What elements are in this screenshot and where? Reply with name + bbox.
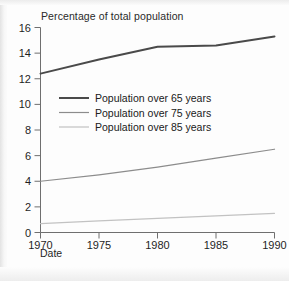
y-tick-label-8: 8: [25, 124, 31, 136]
chart-figure: Percentage of total population 024681012…: [0, 0, 289, 281]
legend-label-2: Population over 75 years: [95, 107, 211, 119]
legend-label-3: Population over 85 years: [95, 121, 211, 133]
y-tick-label-2: 2: [25, 201, 31, 213]
y-tick-label-6: 6: [25, 150, 31, 162]
y-tick-label-0: 0: [25, 227, 31, 239]
series-line-2: [41, 149, 275, 181]
x-tick-label-1980: 1980: [145, 239, 169, 251]
x-tick-label-1975: 1975: [87, 239, 111, 251]
y-axis-ticks: [35, 28, 41, 233]
x-axis-ticks: [41, 233, 275, 239]
x-axis-tick-labels: 19701975198019851990: [28, 239, 286, 251]
x-tick-label-1985: 1985: [204, 239, 228, 251]
y-tick-label-14: 14: [19, 47, 31, 59]
x-tick-label-1990: 1990: [262, 239, 286, 251]
y-tick-label-4: 4: [25, 175, 31, 187]
chart-legend: Population over 65 yearsPopulation over …: [59, 92, 211, 133]
y-tick-label-12: 12: [19, 73, 31, 85]
y-axis-tick-labels: 0246810121416: [19, 22, 31, 239]
series-line-3: [41, 213, 275, 223]
line-chart-plot: 0246810121416 19701975198019851990 Date …: [0, 0, 289, 281]
series-line-1: [41, 36, 275, 73]
y-tick-label-16: 16: [19, 22, 31, 34]
y-tick-label-10: 10: [19, 98, 31, 110]
legend-label-1: Population over 65 years: [95, 92, 211, 104]
x-axis-label: Date: [40, 247, 62, 259]
